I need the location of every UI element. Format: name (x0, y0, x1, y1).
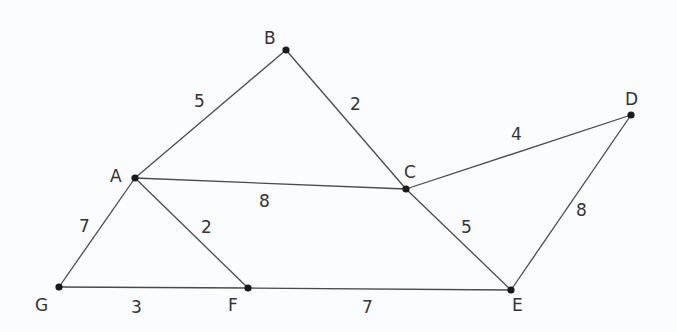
node-c (402, 185, 409, 192)
edge-weight-a-b: 5 (194, 91, 205, 111)
edge-weight-f-e: 7 (362, 297, 373, 317)
node-a (131, 174, 138, 181)
edge-weight-c-e: 5 (461, 217, 472, 237)
weighted-graph-diagram: 5284857237 ABCDEFG (0, 0, 677, 332)
node-label-d: D (625, 89, 638, 109)
node-d (627, 111, 634, 118)
node-label-a: A (110, 166, 122, 186)
node-label-c: C (404, 162, 416, 182)
edge-weight-labels: 5284857237 (79, 91, 587, 317)
node-label-b: B (264, 28, 276, 48)
edge-weight-c-d: 4 (511, 124, 522, 144)
edge-f-e (248, 288, 511, 290)
edge-weight-d-e: 8 (576, 200, 587, 220)
edge-a-b (135, 50, 286, 178)
edge-c-e (406, 189, 511, 290)
node-f (244, 284, 251, 291)
edge-weight-a-g: 7 (79, 216, 90, 236)
edge-a-g (59, 178, 135, 287)
edge-b-c (286, 50, 406, 189)
node-b (282, 46, 289, 53)
node-g (55, 283, 62, 290)
edge-weight-a-f: 2 (201, 217, 212, 237)
edge-a-c (135, 178, 406, 189)
edge-weight-b-c: 2 (350, 94, 361, 114)
node-e (507, 286, 514, 293)
node-label-f: F (228, 295, 238, 315)
edge-d-e (511, 115, 631, 290)
node-labels: ABCDEFG (35, 28, 638, 315)
edge-a-f (135, 178, 248, 288)
node-label-e: E (512, 295, 523, 315)
graph-nodes (55, 46, 634, 293)
edge-weight-a-c: 8 (259, 191, 270, 211)
edge-weight-g-f: 3 (131, 297, 142, 317)
edge-g-f (59, 287, 248, 288)
graph-edges (59, 50, 631, 290)
node-label-g: G (35, 295, 48, 315)
